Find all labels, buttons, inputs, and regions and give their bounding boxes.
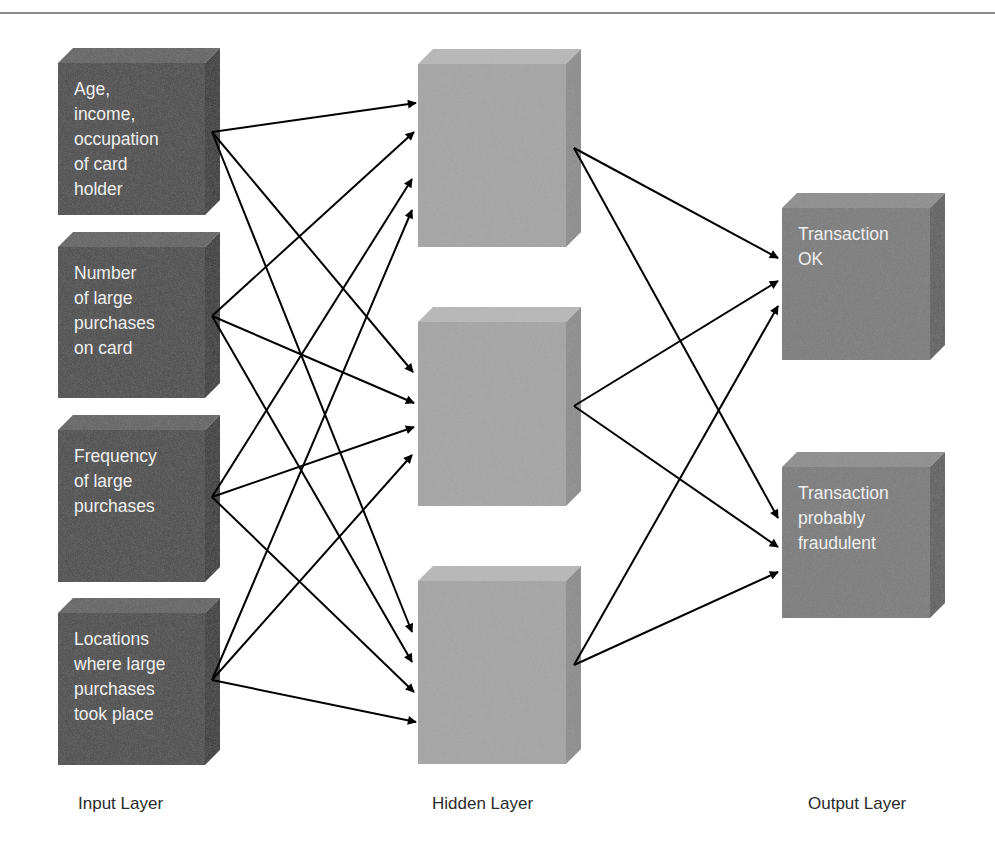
input-node-label: Age, income, occupation of card holder: [74, 77, 159, 202]
arrow-in1-to-h3: [212, 132, 412, 632]
output-layer-label: Output Layer: [808, 794, 906, 814]
hidden-layer-label: Hidden Layer: [432, 794, 533, 814]
box-top-face: [58, 48, 220, 63]
box-top-face: [418, 566, 581, 581]
box-top-face: [58, 415, 220, 430]
box-top-face: [418, 49, 581, 64]
arrow-h2-to-o2: [574, 406, 778, 547]
box-top-face: [58, 232, 220, 247]
arrow-in1-to-h1: [212, 103, 416, 132]
box-side-face: [566, 566, 581, 764]
box-front-face: [418, 581, 566, 764]
arrow-in2-to-h2: [212, 316, 414, 403]
arrow-in3-to-h3: [212, 497, 414, 692]
input-node-label: Frequency of large purchases: [74, 444, 157, 519]
hidden-node-3: [418, 566, 581, 764]
box-front-face: [418, 64, 566, 247]
box-top-face: [58, 598, 220, 613]
input-layer-label: Input Layer: [78, 794, 163, 814]
output-node-label: Transaction OK: [798, 222, 889, 272]
box-front-face: [418, 322, 566, 506]
input-node-label: Number of large purchases on card: [74, 261, 155, 361]
output-node-1: [782, 193, 945, 360]
box-top-face: [782, 193, 945, 208]
box-side-face: [930, 193, 945, 360]
arrow-in4-to-h3: [212, 680, 416, 722]
box-top-face: [418, 307, 581, 322]
node-boxes: [58, 48, 945, 765]
arrow-in3-to-h1: [212, 179, 412, 497]
arrow-h3-to-o1: [574, 306, 778, 665]
hidden-node-1: [418, 49, 581, 247]
box-side-face: [930, 452, 945, 618]
arrow-h2-to-o1: [574, 281, 778, 406]
box-side-face: [566, 49, 581, 247]
box-top-face: [782, 452, 945, 467]
output-node-label: Transaction probably fraudulent: [798, 481, 889, 556]
input-node-label: Locations where large purchases took pla…: [74, 627, 165, 727]
box-side-face: [566, 307, 581, 506]
arrow-h3-to-o2: [574, 572, 778, 665]
hidden-node-2: [418, 307, 581, 506]
